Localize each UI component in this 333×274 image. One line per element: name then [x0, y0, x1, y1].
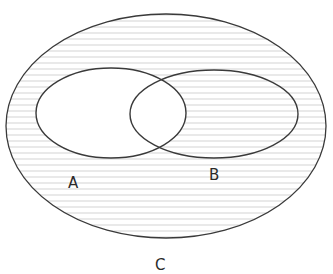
label-b: B	[209, 166, 219, 184]
shaded-region	[6, 14, 326, 238]
label-a: A	[68, 174, 79, 192]
label-c: C	[155, 256, 165, 274]
venn-diagram: A B C	[0, 0, 333, 274]
